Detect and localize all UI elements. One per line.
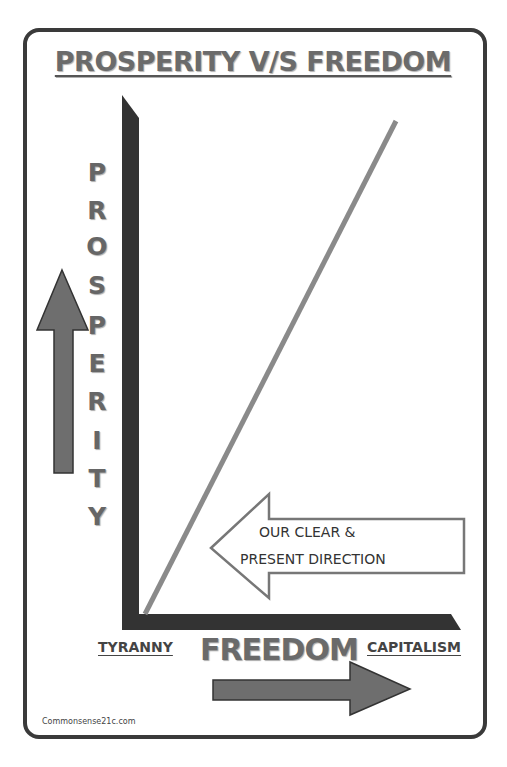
y-axis-letter: Y — [84, 502, 110, 531]
arrow-up-icon — [37, 270, 88, 473]
x-axis-bar — [122, 614, 461, 630]
y-axis-letter: R — [84, 387, 110, 416]
y-axis-letter: P — [84, 158, 110, 187]
y-axis-letter: P — [84, 311, 110, 340]
y-axis-letter: T — [84, 464, 110, 493]
website-credit: Commonsense21c.com — [42, 717, 136, 726]
callout-line-2: PRESENT DIRECTION — [240, 551, 386, 567]
y-axis-letter: I — [84, 426, 110, 455]
y-axis-letter: S — [84, 271, 110, 300]
y-axis-letter: O — [84, 232, 110, 261]
x-axis-left-label: TYRANNY — [98, 639, 173, 655]
y-axis-bar — [122, 95, 139, 630]
callout-line-1: OUR CLEAR & — [259, 524, 356, 540]
arrow-right-icon — [213, 662, 410, 715]
arrow-left-outline-icon — [211, 494, 464, 598]
y-axis-letter: E — [84, 349, 110, 378]
x-axis-right-label: CAPITALISM — [367, 639, 461, 655]
y-axis-letter: R — [84, 196, 110, 225]
x-axis-title: FREEDOM — [200, 632, 358, 667]
